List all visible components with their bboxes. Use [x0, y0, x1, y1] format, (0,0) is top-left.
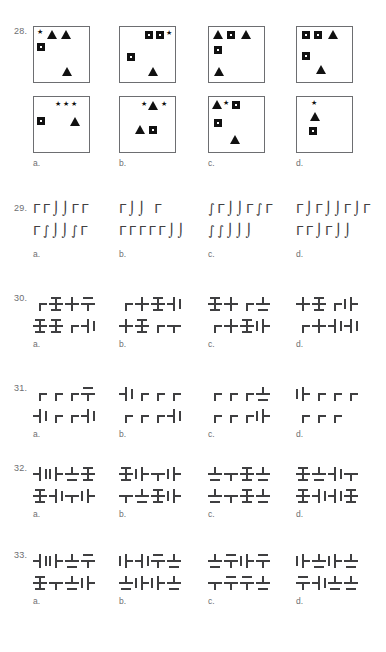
option-label-d[interactable]: d.: [296, 596, 303, 606]
glyph-tee-down: [224, 467, 238, 481]
option-label-a[interactable]: a.: [33, 249, 40, 259]
star-shape: ★: [63, 101, 69, 107]
glyph-row: [33, 485, 97, 504]
triangle-shape: [148, 101, 158, 110]
square-shape: [314, 31, 322, 39]
option-label-a[interactable]: a.: [33, 339, 40, 349]
glyph-tee-right-tick: [135, 576, 149, 590]
glyph-row: [119, 405, 183, 424]
glyph-cross-tb: [151, 297, 165, 311]
glyph-corner-tr: [296, 409, 310, 423]
glyph-corner-tr: [65, 319, 79, 333]
option-label-a[interactable]: a.: [33, 596, 40, 606]
question-number: 33.: [14, 550, 27, 560]
glyph-cross-tb: [344, 489, 358, 503]
shape-panel[interactable]: [208, 26, 265, 83]
option-label-a[interactable]: a.: [33, 158, 40, 168]
shape-panel[interactable]: ★: [296, 96, 353, 153]
option-label-c[interactable]: c.: [208, 429, 215, 439]
shape-panel[interactable]: ★: [208, 96, 265, 153]
shape-panel[interactable]: ★: [119, 26, 176, 83]
glyph-corner-tr: [344, 387, 358, 401]
glyph-corner-tr: [328, 409, 342, 423]
glyph-row: ΓΓ⌡Γ⌡⌡: [296, 225, 354, 237]
glyph-tee-up-tick: [208, 467, 222, 481]
glyph-tee-right-tick: [296, 554, 310, 568]
option-label-b[interactable]: b.: [119, 509, 126, 519]
glyph-tee-up-tick: [135, 489, 149, 503]
shape-panel[interactable]: ★★: [119, 96, 176, 153]
glyph-tee-down-tick: [81, 554, 95, 568]
option-label-c[interactable]: c.: [208, 596, 215, 606]
glyph-tee-down-tick: [81, 297, 95, 311]
shape-panel[interactable]: ★: [33, 26, 90, 83]
glyph-corner-tr: [119, 409, 133, 423]
option-label-c[interactable]: c.: [208, 509, 215, 519]
glyph-cross-tb: [240, 467, 254, 481]
option-label-a[interactable]: a.: [33, 429, 40, 439]
glyph-corner-tr: [135, 387, 149, 401]
square-shape: [145, 31, 153, 39]
option-label-b[interactable]: b.: [119, 158, 126, 168]
glyph-corner-tr: [312, 387, 326, 401]
glyph-tee-up-tick: [65, 576, 79, 590]
glyph-cross-tb: [208, 297, 222, 311]
option-label-d[interactable]: d.: [296, 429, 303, 439]
option-label-d[interactable]: d.: [296, 249, 303, 259]
option-label-b[interactable]: b.: [119, 429, 126, 439]
glyph-corner-tr: [65, 409, 79, 423]
option-label-d[interactable]: d.: [296, 339, 303, 349]
glyph-cross-plain: [224, 297, 238, 311]
option-label-c[interactable]: c.: [208, 158, 215, 168]
glyph-cross-tb: [49, 319, 63, 333]
glyph-row: [119, 383, 183, 402]
glyph-tee-left-tick: [312, 489, 326, 503]
glyph-cross-plain: [119, 319, 133, 333]
glyph-tee-right-tick: [296, 387, 310, 401]
glyph-tee-right-tick: [49, 554, 63, 568]
triangle-shape: [310, 112, 320, 121]
glyph-corner-tr: [296, 319, 310, 333]
option-label-b[interactable]: b.: [119, 249, 126, 259]
square-shape: [214, 119, 222, 127]
glyph-corner-tr: [208, 409, 222, 423]
option-label-c[interactable]: c.: [208, 249, 215, 259]
square-shape: [149, 126, 157, 134]
glyph-row: Γ⌡Γ⌡⌡Γ⌡Γ: [296, 203, 373, 215]
glyph-row: [33, 383, 97, 402]
star-shape: ★: [161, 101, 167, 107]
glyph-row: [208, 293, 272, 312]
glyph-tee-down: [65, 489, 79, 503]
glyph-tee-up-tick: [312, 554, 326, 568]
star-shape: ★: [55, 101, 61, 107]
glyph-row: [119, 463, 183, 482]
shape-panel[interactable]: [296, 26, 353, 83]
star-shape: ★: [71, 101, 77, 107]
glyph-corner-tr: [135, 409, 149, 423]
option-label-b[interactable]: b.: [119, 596, 126, 606]
option-label-a[interactable]: a.: [33, 509, 40, 519]
glyph-tee-up-tick: [119, 576, 133, 590]
option-label-c[interactable]: c.: [208, 339, 215, 349]
glyph-corner-tr: [208, 319, 222, 333]
glyph-tee-left-tick: [33, 554, 47, 568]
glyph-tee-down: [344, 467, 358, 481]
option-label-b[interactable]: b.: [119, 339, 126, 349]
question-block-28: 28.★★★★★★★★★a.b.c.d.: [0, 26, 386, 181]
glyph-row: ΓΓΓΓΓ⌡⌡: [119, 225, 187, 237]
glyph-row: [296, 315, 360, 334]
triangle-shape: [212, 100, 222, 109]
shape-panel[interactable]: ★★★: [33, 96, 90, 153]
glyph-row: [208, 405, 272, 424]
glyph-row: [33, 315, 97, 334]
option-label-d[interactable]: d.: [296, 158, 303, 168]
glyph-tee-down: [224, 489, 238, 503]
glyph-tee-right-tick: [81, 489, 95, 503]
glyph-row: Γ∫⌡⌡∫Γ: [33, 225, 90, 237]
option-label-d[interactable]: d.: [296, 509, 303, 519]
triangle-shape: [62, 67, 72, 76]
glyph-row: [296, 550, 360, 569]
glyph-corner-tr: [65, 387, 79, 401]
glyph-corner-tr: [224, 409, 238, 423]
glyph-cross-tb: [49, 297, 63, 311]
